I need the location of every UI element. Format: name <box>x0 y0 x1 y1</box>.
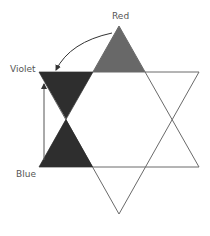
red-region <box>93 26 145 72</box>
hexagram-diagram <box>0 0 210 236</box>
violet-region <box>39 72 93 119</box>
blue-region <box>39 119 93 167</box>
label-red: Red <box>112 12 129 21</box>
label-violet: Violet <box>10 65 36 74</box>
label-blue: Blue <box>16 170 36 179</box>
